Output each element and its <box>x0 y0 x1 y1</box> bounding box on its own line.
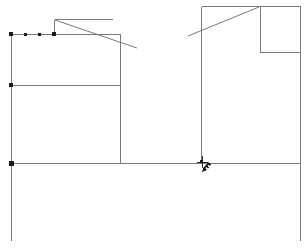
cursor-anchor-point <box>200 160 203 163</box>
snap-point-6[interactable] <box>9 161 14 166</box>
snap-markers-group <box>9 32 56 166</box>
snap-point-2[interactable] <box>24 33 27 36</box>
drawing-svg[interactable] <box>0 0 307 251</box>
cad-application-window: CAD Drawing Canvas Orthographic line dra… <box>0 0 307 251</box>
snap-point-4[interactable] <box>52 32 56 36</box>
snap-point-5[interactable] <box>9 83 13 87</box>
geometry-lines-group <box>12 7 301 241</box>
drawing-canvas[interactable] <box>0 0 307 251</box>
snap-point-1[interactable] <box>9 32 13 36</box>
right-roof-diagonal-line[interactable] <box>188 7 259 36</box>
diagonal-lines-group <box>55 7 259 48</box>
snap-point-3[interactable] <box>38 33 41 36</box>
